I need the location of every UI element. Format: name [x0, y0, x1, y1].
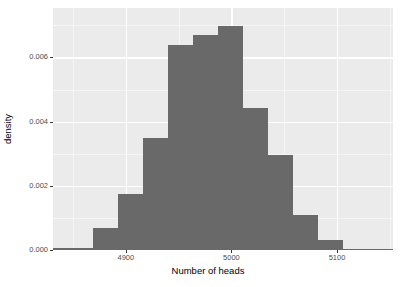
- histogram-bar: [193, 35, 218, 250]
- y-tick-mark: [50, 186, 53, 187]
- histogram-bar: [318, 240, 343, 250]
- plot-panel: [53, 8, 393, 250]
- x-tick-mark: [126, 250, 127, 253]
- y-tick-label: 0.006: [29, 53, 48, 61]
- histogram-bar: [243, 108, 268, 250]
- y-tick-mark: [50, 57, 53, 58]
- x-tick-mark: [337, 250, 338, 253]
- x-tick-label: 5100: [329, 254, 346, 262]
- x-tick-mark: [231, 250, 232, 253]
- x-tick-label: 5000: [223, 254, 240, 262]
- x-axis-title: Number of heads: [0, 266, 416, 276]
- histogram-bar: [168, 45, 193, 250]
- histogram-bar: [143, 138, 168, 250]
- y-axis-title: density: [3, 114, 13, 144]
- histogram-bar: [53, 248, 93, 250]
- histogram-figure: 0.0000.0020.0040.006 490050005100 Number…: [0, 0, 416, 287]
- y-tick-label: 0.004: [29, 118, 48, 126]
- gridline-minor-vertical: [390, 8, 391, 250]
- gridline-minor-vertical: [73, 8, 74, 250]
- histogram-bar: [293, 215, 318, 250]
- histogram-bar: [93, 228, 118, 250]
- histogram-bar: [218, 26, 243, 250]
- y-tick-label: 0.002: [29, 182, 48, 190]
- histogram-bar: [343, 249, 393, 250]
- histogram-bar: [268, 155, 293, 250]
- gridline-major-vertical: [337, 8, 338, 250]
- y-tick-mark: [50, 122, 53, 123]
- x-tick-label: 4900: [118, 254, 135, 262]
- y-tick-label: 0.000: [29, 246, 48, 254]
- y-tick-mark: [50, 250, 53, 251]
- histogram-bar: [118, 194, 143, 250]
